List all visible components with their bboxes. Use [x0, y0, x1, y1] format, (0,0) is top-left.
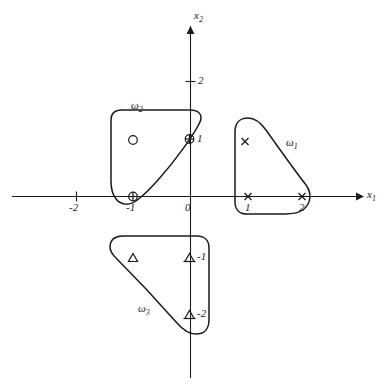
- marker-circle-cross: [129, 192, 138, 201]
- class-label-omega1: ω1: [286, 137, 298, 151]
- marker-triangle-barred: [184, 311, 196, 319]
- x1-axis-arrowhead: [356, 193, 364, 201]
- marker-triangle-barred: [184, 254, 196, 262]
- axis-arrowheads: [187, 26, 364, 200]
- omega3-point-label-neg1: -1: [197, 251, 206, 262]
- omega1-point-label-1: 1: [245, 202, 251, 213]
- region-omega3-outline: [110, 236, 209, 334]
- figure-canvas: x2 x1 2 -2 0 1 2 1 -1 -1 -2 ω1 ω2 ω3: [0, 0, 385, 391]
- marker-circle: [129, 136, 138, 145]
- x-tick-label-neg2: -2: [69, 202, 78, 213]
- omega2-markers: [129, 135, 194, 201]
- x1-axis-label: x1: [367, 189, 376, 203]
- omega1-point-label-2: 2: [299, 202, 305, 213]
- marker-circle-cross: [185, 135, 194, 144]
- scatter-plot: [0, 0, 385, 391]
- x2-axis-arrowhead: [187, 26, 195, 34]
- class-label-omega3: ω3: [138, 303, 150, 317]
- y-tick-label-2: 2: [198, 75, 204, 86]
- omega2-point-label-neg1: -1: [126, 202, 135, 213]
- marker-cross: [242, 138, 249, 145]
- omega3-point-label-neg2: -2: [197, 308, 206, 319]
- x2-axis-label: x2: [194, 10, 203, 24]
- marker-triangle: [128, 254, 137, 262]
- class-label-omega2: ω2: [131, 100, 143, 114]
- origin-label: 0: [185, 202, 191, 213]
- region-omega2-outline: [111, 110, 201, 204]
- omega2-point-label-1: 1: [197, 133, 203, 144]
